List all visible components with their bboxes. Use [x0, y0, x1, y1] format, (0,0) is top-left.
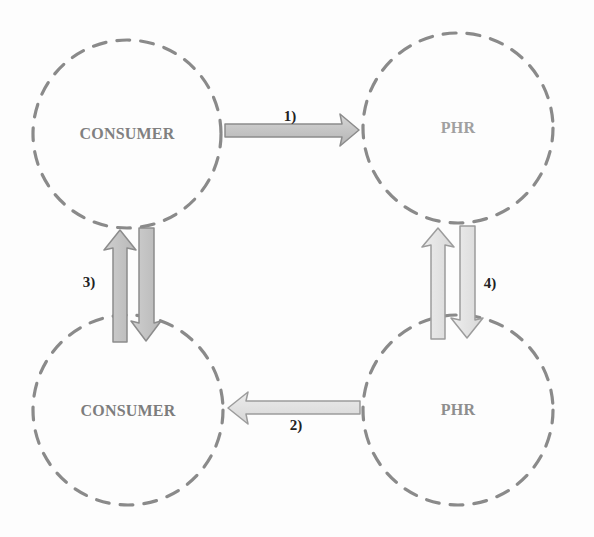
arrow-step-4-up [422, 228, 454, 339]
diagram-canvas: CONSUMER PHR CONSUMER PHR 1) 2) 3) 4) [0, 0, 594, 537]
consumer-bottom-label: CONSUMER [81, 402, 176, 420]
phr-top-label: PHR [441, 119, 475, 137]
arrow-step-4-down [451, 226, 483, 338]
arrow-step-3-up [104, 230, 136, 342]
step-2-label: 2) [290, 417, 303, 434]
diagram-svg [0, 0, 594, 537]
step-1-label: 1) [284, 108, 297, 125]
step-3-label: 3) [83, 274, 96, 291]
consumer-top-label: CONSUMER [80, 125, 175, 143]
phr-bottom-label: PHR [441, 401, 475, 419]
step-4-label: 4) [484, 275, 497, 292]
arrow-step-3-down [131, 228, 161, 341]
